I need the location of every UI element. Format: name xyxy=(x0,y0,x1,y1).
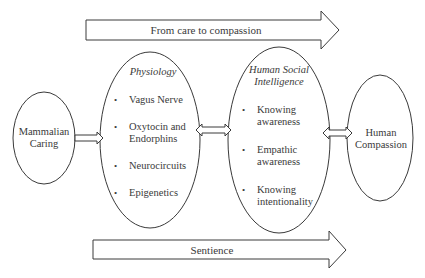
list-item: Neurocircuits xyxy=(113,160,186,172)
human-compassion-label: Human Compassion xyxy=(355,127,407,151)
list-item: Knowingintentionality xyxy=(241,184,313,208)
physiology-list: Vagus Nerve Oxytocin andEndorphins Neuro… xyxy=(113,94,186,199)
connector-arrow-social-compassion xyxy=(323,127,352,139)
connector-arrow-physiology-social xyxy=(196,124,231,136)
list-item: Oxytocin andEndorphins xyxy=(113,121,186,145)
bottom-arrow-label: Sentience xyxy=(191,244,234,256)
physiology-title: Physiology xyxy=(130,66,177,78)
mammalian-caring-label: Mammalian Caring xyxy=(19,126,70,150)
list-item: Knowingawareness xyxy=(241,104,313,128)
list-item: Vagus Nerve xyxy=(113,94,186,106)
list-item: Empathicawareness xyxy=(241,144,313,168)
list-item: Epigenetics xyxy=(113,187,186,199)
social-intelligence-title: Human Social Intelligence xyxy=(249,64,309,88)
connector-arrow-mammalian-physiology xyxy=(75,132,103,144)
top-arrow-label: From care to compassion xyxy=(151,24,262,36)
social-intelligence-list: Knowingawareness Empathicawareness Knowi… xyxy=(241,104,313,208)
